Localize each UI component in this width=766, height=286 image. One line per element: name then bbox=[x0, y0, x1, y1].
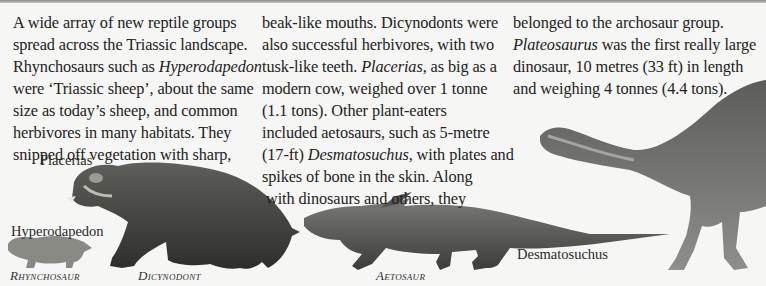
group-label-aetosaur: Aetosaur bbox=[376, 268, 425, 284]
text-column-3: belonged to the archosaur group. Plateos… bbox=[513, 12, 763, 100]
text-line: included aetosaurs, such as 5-metre bbox=[262, 122, 512, 144]
text-run: was the first really large bbox=[598, 35, 756, 54]
text-line: were ‘Triassic sheep’, about the same bbox=[13, 78, 258, 100]
text-run: , with plates and bbox=[409, 145, 514, 164]
text-column-2: beak-like mouths. Dicynodonts were also … bbox=[262, 12, 512, 210]
text-line: A wide array of new reptile groups bbox=[13, 12, 258, 34]
caption-desmatosuchus: Desmatosuchus bbox=[517, 246, 608, 263]
text-line: modern cow, weighed over 1 tonne bbox=[262, 78, 512, 100]
italic-species-name: Plateosaurus bbox=[513, 35, 598, 54]
text-line: (17-ft) Desmatosuchus, with plates and bbox=[262, 144, 512, 166]
text-line: dinosaur, 10 metres (33 ft) in length bbox=[513, 56, 763, 78]
text-column-1: A wide array of new reptile groups sprea… bbox=[13, 12, 258, 166]
text-line: spikes of bone in the skin. Along bbox=[262, 166, 512, 188]
text-line: belonged to the archosaur group. bbox=[513, 12, 763, 34]
text-line: Rhynchosaurs such as Hyperodapedon bbox=[13, 56, 258, 78]
text-line: herbivores in many habitats. They bbox=[13, 122, 258, 144]
caption-placerias: Placerias bbox=[40, 152, 92, 169]
group-label-rhynchosaur: Rhynchosaur bbox=[10, 268, 80, 284]
text-run: , as big as a bbox=[423, 57, 497, 76]
text-run: (17-ft) bbox=[262, 145, 308, 164]
text-line: spread across the Triassic landscape. bbox=[13, 34, 258, 56]
text-line: with dinosaurs and others, they bbox=[262, 188, 512, 210]
text-run: Rhynchosaurs such as bbox=[13, 57, 159, 76]
italic-species-name: Hyperodapedon bbox=[159, 57, 262, 76]
text-line: and weighing 4 tonnes (4.4 tons). bbox=[513, 78, 763, 100]
text-run: tusk-like teeth. bbox=[262, 57, 361, 76]
text-line: also successful herbivores, with two bbox=[262, 34, 512, 56]
group-label-dicynodont: Dicynodont bbox=[138, 268, 201, 284]
text-line: (1.1 tons). Other plant-eaters bbox=[262, 100, 512, 122]
hyperodapedon-illustration bbox=[8, 236, 92, 268]
italic-species-name: Placerias bbox=[361, 57, 423, 76]
text-line: beak-like mouths. Dicynodonts were bbox=[262, 12, 512, 34]
italic-species-name: Desmatosuchus bbox=[308, 145, 409, 164]
text-line: size as today’s sheep, and common bbox=[13, 100, 258, 122]
caption-hyperodapedon: Hyperodapedon bbox=[11, 223, 104, 240]
text-line: tusk-like teeth. Placerias, as big as a bbox=[262, 56, 512, 78]
text-line: Plateosaurus was the first really large bbox=[513, 34, 763, 56]
